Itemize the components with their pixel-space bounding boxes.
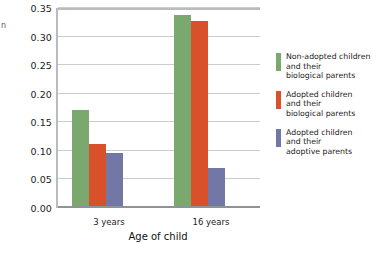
plot-area: 3 years16 years	[58, 10, 260, 208]
legend-swatch	[276, 53, 281, 71]
y-axis-tick-label: 0.05	[30, 174, 52, 185]
bar	[72, 110, 89, 208]
bar	[174, 15, 191, 208]
y-axis-tick-label: 0.15	[30, 117, 52, 128]
bar-group: 16 years	[160, 10, 262, 208]
y-axis-tick-label: 0.25	[30, 60, 52, 71]
chart-legend: Non-adopted children and their biologica…	[276, 52, 386, 165]
bar	[208, 168, 225, 208]
legend-label: Adopted children and their biological pa…	[286, 90, 355, 119]
bar-group: 3 years	[58, 10, 160, 208]
y-axis-tick-label: 0.20	[30, 88, 52, 99]
legend-item: Adopted children and their adoptive pare…	[276, 128, 386, 157]
plot-frame: 3 years16 years	[56, 8, 260, 208]
y-axis-tick-label: 0.35	[30, 3, 52, 14]
legend-label: Non-adopted children and their biologica…	[286, 52, 370, 81]
legend-swatch	[276, 129, 281, 147]
x-axis-title: Age of child	[56, 231, 260, 242]
legend-swatch	[276, 91, 281, 109]
legend-item: Non-adopted children and their biologica…	[276, 52, 386, 81]
legend-item: Adopted children and their biological pa…	[276, 90, 386, 119]
y-axis-tick-label: 0.00	[30, 203, 52, 214]
bar-chart-figure: n 0.350.300.250.200.150.100.050.00 3 yea…	[0, 0, 389, 253]
y-axis-tick-label: 0.30	[30, 31, 52, 42]
legend-label: Adopted children and their adoptive pare…	[286, 128, 352, 157]
x-axis-tick-label: 3 years	[58, 217, 160, 227]
x-axis-tick-label: 16 years	[160, 217, 262, 227]
gridline	[58, 7, 260, 8]
x-axis-baseline	[58, 206, 260, 208]
y-axis-tick-label: 0.10	[30, 145, 52, 156]
bar	[106, 153, 123, 208]
y-axis-tick-labels: 0.350.300.250.200.150.100.050.00	[0, 0, 56, 215]
bar	[89, 144, 106, 208]
bar	[191, 21, 208, 208]
